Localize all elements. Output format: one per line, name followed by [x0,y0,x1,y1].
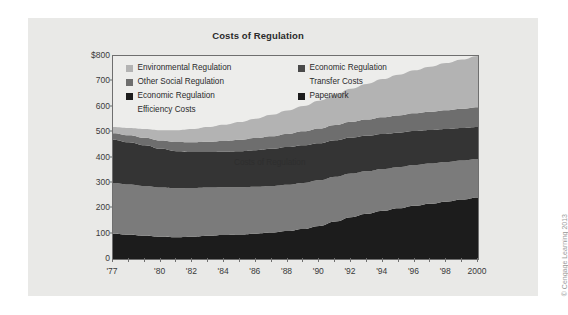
legend-swatch-icon [298,65,305,72]
x-axis-tick-mark [429,258,430,262]
x-axis-tick-label: '77 [106,266,117,276]
x-axis-tick-mark [112,258,113,262]
legend-swatch-icon [126,65,133,72]
legend-item: Economic Regulation [298,63,463,74]
x-axis-tick-mark [382,258,383,262]
x-axis-tick-mark [445,258,446,262]
y-axis-tick-label: 100 [64,228,110,238]
y-axis: 0100200300400500600700$800 [56,55,110,258]
x-axis-tick-label: '84 [218,266,229,276]
y-axis-tick-label: 200 [64,202,110,212]
legend-item: Paperwork [298,91,463,102]
legend-item-label-continued: Efficiency Costs [126,105,291,116]
x-axis-tick-mark [302,258,303,262]
x-axis-tick-mark [477,258,478,262]
x-axis-tick-mark [175,258,176,262]
x-axis-tick-mark [144,258,145,262]
legend-item-label-continued: Transfer Costs [298,77,463,88]
x-axis-tick-label: '90 [313,266,324,276]
y-axis-tick-label: 600 [64,101,110,111]
legend-item-label: Paperwork [310,91,349,102]
x-axis-tick-mark [239,258,240,262]
legend-swatch-icon [126,79,133,86]
legend-item: Other Social Regulation [126,77,291,88]
y-axis-tick-label: 0 [64,253,110,263]
x-axis-tick-label: '82 [186,266,197,276]
legend-item-label: Economic Regulation [310,63,387,74]
chart-title: Costs of Regulation [28,30,488,41]
x-axis-tick-label: '98 [440,266,451,276]
x-axis-tick-mark [366,258,367,262]
legend-column-right: Economic RegulationTransfer CostsPaperwo… [298,63,463,105]
copyright-credit: © Cengage Learning 2013 [561,214,568,296]
x-axis-tick-mark [207,258,208,262]
legend-item: Environmental Regulation [126,63,291,74]
x-axis-tick-mark [318,258,319,262]
x-axis-tick-mark [128,258,129,262]
y-axis-tick-label: 500 [64,126,110,136]
y-axis-tick-label: $800 [64,50,110,60]
x-axis-tick-label: '96 [408,266,419,276]
legend-item-label: Environmental Regulation [138,63,232,74]
x-axis-tick-mark [160,258,161,262]
x-axis-tick-label: '86 [249,266,260,276]
x-axis-tick-mark [255,258,256,262]
x-axis-tick-mark [271,258,272,262]
legend-swatch-icon [298,93,305,100]
x-axis-tick-label: '92 [344,266,355,276]
y-axis-tick-label: 300 [64,177,110,187]
series-annotation-label: Costs of Regulation [234,158,305,167]
legend-column-left: Environmental RegulationOther Social Reg… [126,63,291,119]
legend-item-label: Other Social Regulation [138,77,224,88]
x-axis-tick-label: 2000 [468,266,487,276]
y-axis-tick-label: 700 [64,75,110,85]
x-axis: '77'80'82'84'86'88'90'92'94'96'982000 [112,258,479,284]
x-axis-tick-label: '94 [376,266,387,276]
x-axis-tick-mark [223,258,224,262]
figure-panel: Costs of Regulation 01002003004005006007… [28,18,538,296]
legend-item-label: Economic Regulation [138,91,215,102]
x-axis-tick-mark [350,258,351,262]
x-axis-tick-mark [398,258,399,262]
legend-item: Economic Regulation [126,91,291,102]
x-axis-tick-mark [414,258,415,262]
x-axis-tick-mark [287,258,288,262]
x-axis-tick-label: '88 [281,266,292,276]
x-axis-tick-mark [191,258,192,262]
x-axis-tick-mark [334,258,335,262]
x-axis-tick-label: '80 [154,266,165,276]
legend-swatch-icon [126,93,133,100]
y-axis-tick-label: 400 [64,152,110,162]
x-axis-tick-mark [461,258,462,262]
